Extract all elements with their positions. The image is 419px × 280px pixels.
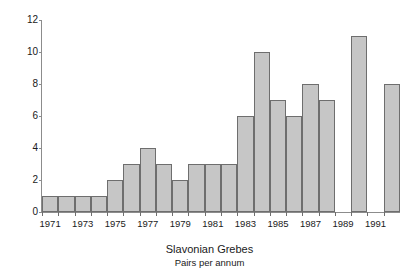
y-axis-tick-label: 6 (2, 111, 38, 121)
y-axis-tick-label: 2 (2, 175, 38, 185)
x-axis-tick-mark (58, 212, 59, 216)
chart-subtitle: Pairs per annum (0, 257, 419, 268)
x-axis-tick-mark (237, 212, 238, 216)
x-axis-tick-mark (367, 212, 368, 216)
y-axis-tick-mark (39, 52, 42, 53)
y-axis-tick-mark (39, 148, 42, 149)
y-axis-tick-label: 0 (2, 207, 38, 217)
bar (384, 84, 400, 212)
x-axis-tick-mark (302, 212, 303, 216)
x-axis-tick-mark (107, 212, 108, 216)
x-axis-tick-mark (286, 212, 287, 216)
y-axis-tick-label: 12 (2, 15, 38, 25)
bar-chart: 024681012 197119731975197719791981198319… (0, 0, 419, 280)
x-axis-tick-mark (123, 212, 124, 216)
x-axis-tick-mark (221, 212, 222, 216)
y-axis: 024681012 (0, 0, 38, 280)
bar (302, 84, 318, 212)
chart-title: Slavonian Grebes (0, 243, 419, 256)
x-axis-tick-mark (384, 212, 385, 216)
x-axis-tick-mark (351, 212, 352, 216)
x-axis-tick-mark (156, 212, 157, 216)
y-axis-tick-mark (39, 20, 42, 21)
bar (270, 100, 286, 212)
x-axis-tick-mark (140, 212, 141, 216)
bar (156, 164, 172, 212)
bar (42, 196, 58, 212)
x-axis-tick-mark (205, 212, 206, 216)
x-axis-tick-label: 1991 (356, 218, 396, 229)
bar (188, 164, 204, 212)
bar (205, 164, 221, 212)
bar (237, 116, 253, 212)
bar (221, 164, 237, 212)
bar (319, 100, 335, 212)
bar (123, 164, 139, 212)
x-axis-tick-mark (335, 212, 336, 216)
bar (75, 196, 91, 212)
bar (254, 52, 270, 212)
bar (140, 148, 156, 212)
y-axis-tick-label: 8 (2, 79, 38, 89)
x-axis-tick-mark (254, 212, 255, 216)
x-axis-tick-mark (319, 212, 320, 216)
bar (91, 196, 107, 212)
y-axis-tick-mark (39, 116, 42, 117)
bar (172, 180, 188, 212)
bar (286, 116, 302, 212)
x-axis-tick-mark (270, 212, 271, 216)
x-axis-tick-mark (91, 212, 92, 216)
y-axis-tick-label: 4 (2, 143, 38, 153)
x-axis-tick-mark (42, 212, 43, 216)
plot-area (42, 20, 400, 212)
bar (351, 36, 367, 212)
bar (107, 180, 123, 212)
x-axis-tick-mark (172, 212, 173, 216)
y-axis-tick-mark (39, 180, 42, 181)
y-axis-tick-mark (39, 84, 42, 85)
y-axis-tick-label: 10 (2, 47, 38, 57)
x-axis-tick-mark (75, 212, 76, 216)
x-axis-tick-mark (188, 212, 189, 216)
bar (58, 196, 74, 212)
